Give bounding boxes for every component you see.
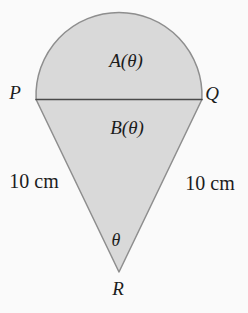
cone-shape-canvas	[0, 0, 248, 313]
region-label-a-theta: A(θ)	[109, 51, 143, 70]
apex-angle-label-theta: θ	[112, 231, 121, 249]
geometry-figure: P Q A(θ) B(θ) 10 cm 10 cm θ R	[0, 0, 248, 313]
vertex-label-r: R	[112, 279, 124, 298]
vertex-label-p: P	[9, 83, 21, 102]
region-label-b-theta: B(θ)	[110, 118, 144, 137]
right-side-length-label: 10 cm	[185, 173, 234, 193]
vertex-label-q: Q	[205, 84, 219, 103]
left-side-length-label: 10 cm	[9, 171, 58, 191]
